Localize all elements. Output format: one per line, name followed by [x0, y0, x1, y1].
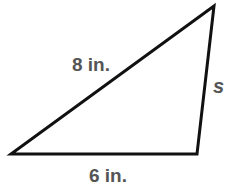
triangle-diagram: 8 in. 6 in. s — [0, 0, 238, 195]
triangle-svg: 8 in. 6 in. s — [0, 0, 238, 195]
triangle-shape — [11, 6, 214, 154]
side-label-6in: 6 in. — [89, 165, 127, 186]
side-label-s: s — [213, 75, 224, 97]
side-label-8in: 8 in. — [72, 54, 110, 75]
